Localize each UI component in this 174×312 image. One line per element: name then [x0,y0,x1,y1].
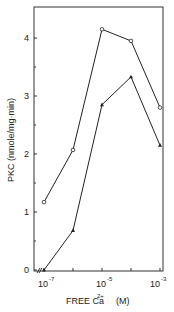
y-axis-label: PKC (nmole/mg·min) [6,98,16,182]
svg-text:10: 10 [150,279,160,289]
x-tick-label: 10 -7 [38,276,55,289]
data-point [129,39,133,43]
svg-text:-7: -7 [49,276,55,282]
series-open-line [44,29,160,202]
chart: 0 1 2 3 4 10 -7 10 -5 10 -3 FREE Ca 2+ (… [0,0,174,312]
svg-text:10: 10 [38,279,48,289]
svg-text:2+: 2+ [97,293,104,299]
y-tick-label: 3 [24,91,29,101]
series-open-markers [42,28,162,204]
data-point [100,28,104,32]
data-point [42,200,46,204]
y-tick-label: 0 [24,265,29,275]
data-point [129,75,133,79]
data-point [71,148,75,152]
x-axis-label: FREE Ca 2+ (M) [66,293,130,306]
x-tick-label: 10 -3 [150,276,167,289]
plot-frame [34,7,163,271]
y-tick-label: 4 [24,33,29,43]
data-point [71,228,75,232]
y-tick-label: 2 [24,149,29,159]
svg-text:-5: -5 [107,276,113,282]
data-point [158,143,162,147]
svg-text:10: 10 [96,279,106,289]
svg-text:(M): (M) [116,296,130,306]
data-point [158,106,162,110]
x-tick-label: 10 -5 [96,276,113,289]
svg-text:-3: -3 [161,276,167,282]
y-tick-label: 1 [24,207,29,217]
